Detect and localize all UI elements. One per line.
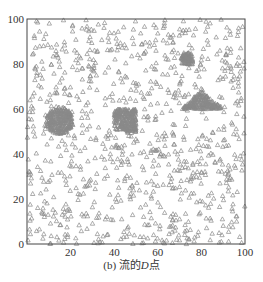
scatter-chart: 20406080100 020406080100: [0, 0, 263, 282]
figure-caption: (b) 流的D点: [0, 256, 263, 272]
y-tick-label: 60: [13, 103, 25, 115]
caption-suffix: 点: [149, 259, 160, 271]
y-tick-label: 100: [8, 13, 25, 25]
data-points: [25, 17, 247, 245]
y-tick-label: 40: [13, 148, 25, 160]
y-axis-ticks: 020406080100: [8, 13, 25, 250]
y-tick-label: 0: [19, 238, 25, 250]
y-tick-label: 20: [13, 193, 25, 205]
y-tick-label: 80: [13, 58, 25, 70]
triangle-markers: [25, 17, 247, 245]
caption-prefix: (b) 流的: [103, 259, 141, 271]
caption-italic: D: [141, 259, 149, 271]
